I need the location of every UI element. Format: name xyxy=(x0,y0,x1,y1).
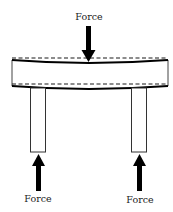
beam xyxy=(12,58,168,89)
top-force-arrow-icon xyxy=(82,26,96,62)
force-diagram: Force Force Force xyxy=(0,0,173,212)
left-column xyxy=(31,88,46,152)
diagram-svg xyxy=(0,0,173,212)
beam-top-deflected xyxy=(12,60,168,63)
right-force-arrow-icon xyxy=(133,154,146,191)
left-force-label: Force xyxy=(24,194,51,204)
right-force-label: Force xyxy=(126,195,153,205)
top-force-label: Force xyxy=(75,12,102,22)
left-force-arrow-icon xyxy=(32,154,45,191)
right-column xyxy=(132,88,147,152)
